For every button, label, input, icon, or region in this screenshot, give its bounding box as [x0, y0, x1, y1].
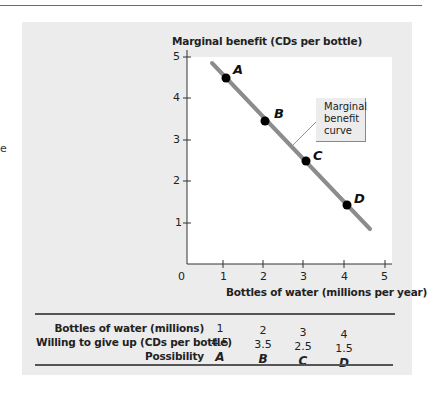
point-label-d: D: [354, 191, 365, 206]
point-label-c: C: [313, 148, 323, 163]
y-tick-5: 5: [173, 50, 180, 63]
x-tick-4: 4: [341, 270, 348, 283]
cell-possibility-c: C: [288, 354, 318, 368]
point-label-a: A: [233, 62, 243, 77]
callout-line-3: curve: [324, 125, 365, 137]
y-tick-4: 4: [173, 91, 180, 104]
y-tick-2: 2: [173, 174, 180, 187]
x-tick-0: 0: [178, 270, 185, 283]
cell-willing-b: 3.5: [248, 338, 278, 351]
x-tick-2: 2: [260, 270, 267, 283]
cell-willing-a: 4.5: [205, 336, 235, 349]
row-label-bottles: Bottles of water (millions): [36, 322, 204, 334]
row-label-willing: Willing to give up (CDs per bottle): [36, 336, 204, 348]
point-a: [222, 74, 231, 83]
marginal-benefit-callout: Marginal benefit curve: [316, 98, 366, 142]
point-b: [261, 117, 270, 126]
cell-bottles-d: 4: [329, 328, 359, 341]
callout-line-2: benefit: [324, 113, 365, 125]
point-label-b: B: [274, 106, 284, 121]
x-axis-title: Bottles of water (millions per year): [226, 286, 427, 298]
cell-willing-d: 1.5: [329, 342, 359, 355]
y-tick-1: 1: [175, 216, 182, 229]
callout-line-1: Marginal: [324, 101, 365, 113]
table-top-rule: [35, 313, 395, 315]
cell-bottles-a: 1: [205, 322, 235, 335]
point-d: [343, 201, 352, 210]
row-label-possibility: Possibility: [36, 350, 204, 362]
x-tick-5: 5: [381, 270, 388, 283]
y-axis-title: Marginal benefit (CDs per bottle): [172, 35, 362, 47]
x-tick-3: 3: [300, 270, 307, 283]
point-c: [302, 157, 311, 166]
y-tick-3: 3: [173, 133, 180, 146]
callout-leader: [293, 122, 316, 145]
cell-possibility-d: D: [329, 356, 359, 370]
cell-possibility-a: A: [205, 350, 235, 364]
x-tick-1: 1: [220, 270, 227, 283]
cell-willing-c: 2.5: [288, 340, 318, 353]
cell-bottles-b: 2: [248, 324, 278, 337]
table-bottom-rule: [35, 364, 393, 366]
cell-bottles-c: 3: [288, 326, 318, 339]
